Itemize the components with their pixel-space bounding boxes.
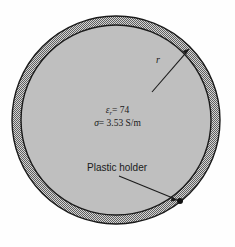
relative-permittivity-label: εr= 74 xyxy=(0,106,235,116)
radius-label: r xyxy=(156,55,160,65)
conductivity-value: = 3.53 S/m xyxy=(99,118,141,128)
conductivity-label: σ= 3.53 S/m xyxy=(0,119,235,129)
permittivity-subscript: r xyxy=(109,109,112,116)
plastic-holder-marker-dot xyxy=(177,198,183,204)
phantom-cross-section-figure: r εr= 74 σ= 3.53 S/m Plastic holder xyxy=(0,0,235,247)
plastic-holder-label: Plastic holder xyxy=(87,163,147,173)
permittivity-value: = 74 xyxy=(112,105,129,115)
